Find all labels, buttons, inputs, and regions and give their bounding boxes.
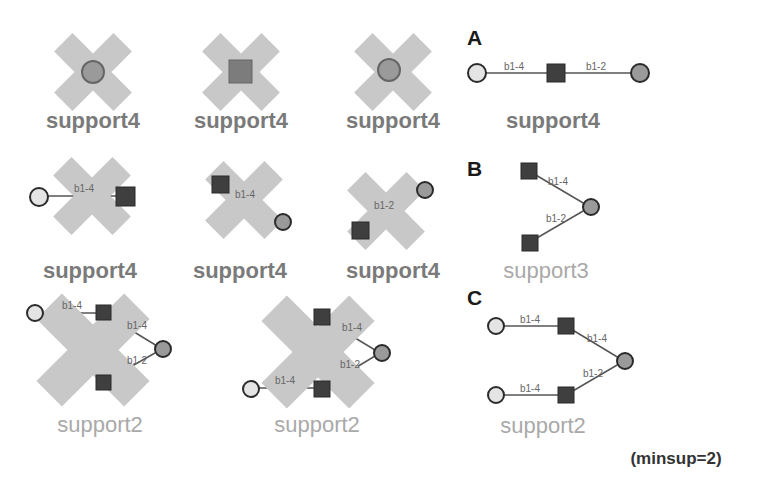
edge-label: b1-2 xyxy=(546,213,566,224)
support-label: support2 xyxy=(57,412,143,437)
square-node xyxy=(212,176,229,193)
square-node xyxy=(547,64,565,82)
minsup-footnote: (minsup=2) xyxy=(630,449,721,468)
gray-circle-node xyxy=(374,345,390,361)
pruned-candidate-8: b1-4 b1-4 b1-2 support2 xyxy=(243,295,390,437)
support-label: support4 xyxy=(194,108,289,133)
pattern-letter: C xyxy=(467,286,482,309)
gray-circle-node xyxy=(631,64,649,82)
gray-circle-node xyxy=(417,182,433,198)
edge-label: b1-4 xyxy=(504,61,524,72)
support-label: support4 xyxy=(346,258,441,283)
edge-label: b1-4 xyxy=(520,314,540,325)
pruned-candidate-6: b1-2 support4 xyxy=(346,172,441,283)
edge-label: b1-2 xyxy=(374,200,394,211)
support-label: support2 xyxy=(274,412,360,437)
square-node xyxy=(314,381,330,397)
gray-circle-node xyxy=(617,353,633,369)
light-circle-node xyxy=(468,64,486,82)
square-node xyxy=(314,309,330,325)
light-circle-node xyxy=(27,305,43,321)
support-label: support2 xyxy=(500,413,586,438)
edge-label: b1-2 xyxy=(586,61,606,72)
square-node xyxy=(116,187,135,206)
pruned-candidate-3: support4 xyxy=(346,33,441,133)
gray-circle-node xyxy=(583,199,599,215)
light-circle-node xyxy=(30,188,48,206)
edge-label: b1-4 xyxy=(342,322,362,333)
gray-circle-node xyxy=(275,214,291,230)
pruned-candidate-5: b1-4 support4 xyxy=(193,161,291,283)
support-label: support4 xyxy=(43,258,138,283)
light-circle-node xyxy=(488,318,504,334)
square-node xyxy=(558,387,574,403)
gray-circle-node xyxy=(155,341,171,357)
edge-label: b1-2 xyxy=(583,368,603,379)
edge-label: b1-4 xyxy=(74,183,94,194)
square-node xyxy=(521,163,537,179)
edge-label: b1-4 xyxy=(587,333,607,344)
gray-circle-node xyxy=(378,59,400,81)
support-label: support4 xyxy=(346,108,441,133)
edge-label: b1-4 xyxy=(62,300,82,311)
pattern-letter: A xyxy=(467,26,482,49)
support-label: support4 xyxy=(506,108,601,133)
square-node xyxy=(352,222,369,239)
edge-label: b1-2 xyxy=(127,355,147,366)
pattern-letter: B xyxy=(467,157,482,180)
edge-label: b1-2 xyxy=(340,359,360,370)
square-node xyxy=(96,305,111,320)
pruned-candidate-2: support4 xyxy=(194,33,289,133)
edge-label: b1-4 xyxy=(548,176,568,187)
edge-label: b1-4 xyxy=(275,375,295,386)
pattern-b: B b1-4 b1-2 support3 xyxy=(467,157,599,283)
support-label: support4 xyxy=(46,108,141,133)
pattern-a: A b1-4 b1-2 support4 xyxy=(467,26,649,133)
edge-label: b1-4 xyxy=(520,383,540,394)
edge-label: b1-4 xyxy=(127,320,147,331)
square-node xyxy=(558,318,574,334)
support-label: support3 xyxy=(503,258,589,283)
pruned-candidate-1: support4 xyxy=(46,33,141,133)
edge-label: b1-4 xyxy=(235,189,255,200)
support-label: support4 xyxy=(193,258,288,283)
frequent-subtree-diagram: support4 support4 support4 A b1-4 b1-2 s… xyxy=(0,0,776,489)
square-node xyxy=(96,375,111,390)
gray-circle-node xyxy=(82,61,104,83)
pattern-c: C b1-4 b1-4 b1-4 b1-2 support2 xyxy=(467,286,633,438)
square-node xyxy=(522,235,538,251)
light-circle-node xyxy=(488,387,504,403)
square-node xyxy=(229,60,252,83)
pruned-candidate-7: b1-4 b1-4 b1-2 support2 xyxy=(27,293,171,437)
light-circle-node xyxy=(243,381,259,397)
pruned-candidate-4: b1-4 support4 xyxy=(30,157,138,283)
